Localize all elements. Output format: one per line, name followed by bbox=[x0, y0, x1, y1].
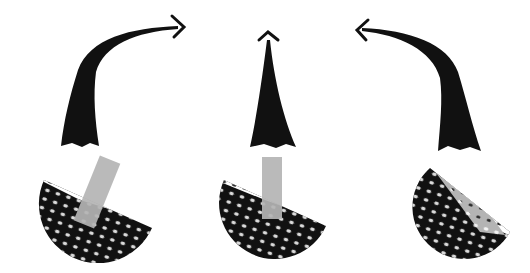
shot-left bbox=[30, 16, 184, 270]
golf-ball-right bbox=[400, 155, 520, 270]
arrow-up-icon bbox=[259, 32, 278, 40]
golf-shot-diagram bbox=[0, 0, 530, 273]
flight-trail-right bbox=[362, 28, 481, 151]
flight-trail-left bbox=[61, 26, 178, 147]
flight-trail-center bbox=[250, 40, 296, 148]
shot-center bbox=[210, 32, 335, 273]
clubface-bar-center bbox=[262, 157, 282, 219]
shot-right bbox=[357, 20, 520, 270]
